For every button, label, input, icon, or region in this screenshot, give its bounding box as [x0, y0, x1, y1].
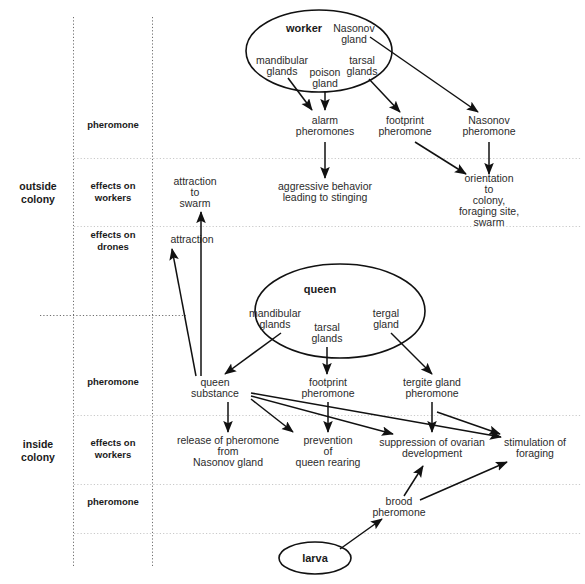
row-label-effects-drones-line2: drones	[97, 241, 129, 252]
row-label-effects-workers-inside-line1: effects on	[91, 437, 136, 448]
section-label-outside-line1: outside	[19, 180, 56, 192]
inside-pheromone-arrows	[228, 393, 507, 549]
caste-label-worker: worker	[285, 22, 323, 34]
row-label-effects-workers-outside-line2: workers	[94, 192, 131, 203]
row-label-pheromone-outside: pheromone	[87, 119, 139, 130]
suppression-ovarian-line2: development	[402, 447, 462, 459]
row-label-pheromone-brood: pheromone	[87, 496, 139, 507]
row-label-effects-workers-outside-line1: effects on	[91, 180, 136, 191]
queen-mandibular-glands-line2: glands	[260, 318, 291, 330]
nasonov-pheromone-line2: pheromone	[462, 125, 515, 137]
footprint-pheromone-outside-line2: pheromone	[378, 125, 431, 137]
worker-mandibular-glands-line2: glands	[267, 65, 298, 77]
arrow-tergal-to-tergite-pheromone	[391, 333, 432, 374]
queen-tarsal-glands-line2: glands	[312, 332, 343, 344]
worker-nasonov-gland-line2: gland	[341, 33, 367, 45]
tergite-gland-pheromone-line2: pheromone	[405, 387, 458, 399]
arrow-queen-substance-to-attraction-drones	[172, 249, 196, 376]
attraction-drones-label: attraction	[170, 233, 213, 245]
section-labels: outside colony inside colony	[19, 180, 56, 463]
attraction-to-swarm-line3: swarm	[180, 197, 211, 209]
prevention-queen-rearing-line3: queen rearing	[296, 456, 361, 468]
arrow-brood-to-suppression	[404, 466, 423, 496]
worker-tarsal-glands-line2: glands	[347, 65, 378, 77]
queen-tergal-gland-line2: gland	[373, 318, 399, 330]
section-label-inside-line2: colony	[21, 451, 55, 463]
caste-label-queen: queen	[304, 283, 337, 295]
arrow-queen-substance-to-prevention	[251, 399, 293, 432]
arrow-mandibular-to-alarm	[288, 78, 312, 110]
row-label-effects-drones-line1: effects on	[91, 229, 136, 240]
alarm-pheromones-line2: pheromones	[296, 125, 354, 137]
arrow-queen-mandibular-to-queen-substance	[225, 333, 281, 374]
footprint-pheromone-inside-line2: pheromone	[301, 387, 354, 399]
caste-label-larva: larva	[302, 552, 329, 564]
arrow-brood-to-stimulation	[420, 462, 507, 500]
arrow-nasonov-gland-to-nasonov-pheromone	[370, 37, 478, 112]
row-label-pheromone-inside: pheromone	[87, 376, 139, 387]
row-label-effects-workers-inside-line2: workers	[94, 449, 131, 460]
pheromone-flow-diagram: outside colony inside colony pheromone e…	[0, 0, 585, 584]
section-label-outside-line2: colony	[21, 193, 55, 205]
stimulation-foraging-line2: foraging	[516, 447, 554, 459]
arrow-footprint-to-orientation	[415, 142, 466, 174]
section-label-inside-line1: inside	[23, 438, 54, 450]
arrow-tarsal-to-footprint	[369, 79, 400, 112]
release-nasonov-line3: Nasonov gland	[193, 456, 263, 468]
brood-pheromone-line2: pheromone	[372, 506, 425, 518]
orientation-line5: swarm	[474, 216, 505, 228]
aggressive-behavior-line2: leading to stinging	[283, 191, 368, 203]
row-labels: pheromone effects on workers effects on …	[87, 119, 139, 507]
arrow-larva-to-brood-pheromone	[340, 519, 382, 549]
diagram-canvas: outside colony inside colony pheromone e…	[0, 0, 585, 584]
worker-poison-gland-line2: gland	[312, 77, 338, 89]
queen-substance-line2: substance	[191, 387, 239, 399]
